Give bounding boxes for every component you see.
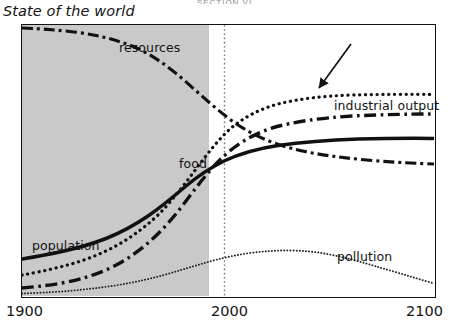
label-population: population [32, 238, 100, 253]
x-tick-2100: 2100 [406, 303, 443, 319]
label-resources: resources [119, 40, 180, 55]
figure-title: State of the world [3, 3, 135, 19]
label-industrial-output: industrial output [334, 98, 439, 113]
x-tick-2000: 2000 [211, 303, 248, 319]
label-food: food [179, 156, 207, 171]
figure-state-of-the-world: SECTION VI State of the world [0, 0, 449, 326]
label-pollution: pollution [337, 249, 392, 264]
x-tick-1900: 1900 [6, 303, 43, 319]
industrial-output-arrow [319, 44, 351, 88]
